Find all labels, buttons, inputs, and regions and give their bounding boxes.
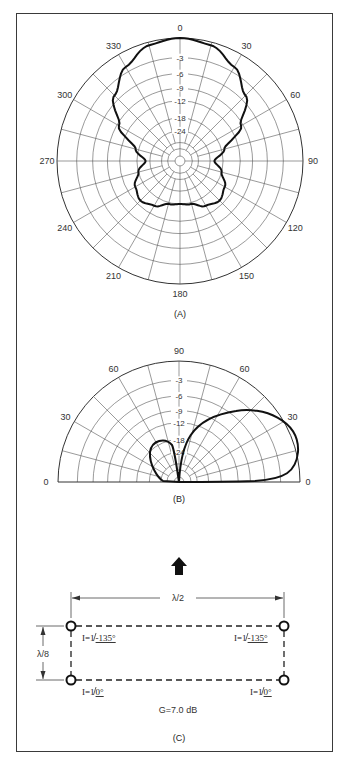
panel-b-caption: (B) (173, 494, 185, 504)
gain-label: G=7.0 dB (159, 705, 197, 715)
db-label: -3 (176, 54, 184, 63)
panel-c-array-layout: λ/2 λ/8 I=1-135° I=1-135° I=10° (36, 557, 289, 743)
db-label: -24 (174, 127, 186, 136)
current-label-top-left: I=1-135° (82, 633, 116, 643)
angle-label: 330 (106, 41, 121, 51)
db-label: -18 (173, 436, 185, 445)
svg-text:I=1-135°: I=1-135° (82, 633, 116, 643)
db-label: -12 (173, 419, 185, 428)
svg-text:I=1-135°: I=1-135° (234, 633, 268, 643)
arrowhead-left-icon (72, 596, 80, 601)
angle-label: 240 (57, 223, 72, 233)
antenna-element-top-right (280, 622, 289, 631)
vertical-spacing-label: λ/8 (37, 649, 49, 659)
elevation-angle-label: 0 (305, 477, 310, 487)
arrowhead-down-icon (41, 671, 46, 679)
angle-label: 90 (308, 156, 318, 166)
antenna-element-bottom-right (280, 676, 289, 685)
svg-text:I=10°: I=10° (250, 687, 272, 697)
angle-label: 0 (177, 23, 182, 33)
current-label-bottom-left: I=10° (82, 687, 104, 697)
db-label: -6 (175, 392, 183, 401)
svg-text:I=10°: I=10° (82, 687, 104, 697)
elevation-angle-label: 60 (239, 364, 249, 374)
angle-label: 60 (290, 90, 300, 100)
elevation-angle-label: 90 (174, 346, 184, 356)
db-label: -9 (176, 84, 184, 93)
arrowhead-up-icon (41, 627, 46, 635)
direction-up-arrow-icon (171, 557, 187, 575)
db-label: -9 (175, 407, 183, 416)
angle-label: 300 (57, 90, 72, 100)
db-label: -3 (175, 376, 183, 385)
panel-c-caption: (C) (173, 733, 186, 743)
db-label: -12 (174, 97, 186, 106)
angle-label: 180 (172, 289, 187, 299)
angle-label: 210 (106, 271, 121, 281)
antenna-pattern-figure: 0306090120150180210240270300330-3-6-9-12… (0, 0, 348, 762)
horizontal-spacing-label: λ/2 (172, 593, 184, 603)
db-label: -18 (174, 114, 186, 123)
angle-label: 30 (241, 41, 251, 51)
angle-label: 120 (288, 223, 303, 233)
panel-a-caption: (A) (174, 309, 186, 319)
elevation-angle-label: 30 (61, 412, 71, 422)
panel-b-elevation-plot: 030609060300-3-6-9-12-18-24 (43, 346, 310, 487)
current-label-bottom-right: I=10° (250, 687, 272, 697)
antenna-element-top-left (67, 622, 76, 631)
elevation-back-lobe-curve (150, 441, 179, 482)
elevation-angle-label: 0 (43, 477, 48, 487)
angle-label: 270 (39, 156, 54, 166)
elevation-angle-label: 30 (287, 412, 297, 422)
elevation-angle-label: 60 (108, 364, 118, 374)
db-label: -6 (176, 70, 184, 79)
arrowhead-right-icon (275, 596, 283, 601)
panel-a-azimuth-plot: 0306090120150180210240270300330-3-6-9-12… (39, 23, 318, 299)
angle-label: 150 (239, 271, 254, 281)
current-label-top-right: I=1-135° (234, 633, 268, 643)
antenna-element-bottom-left (67, 676, 76, 685)
